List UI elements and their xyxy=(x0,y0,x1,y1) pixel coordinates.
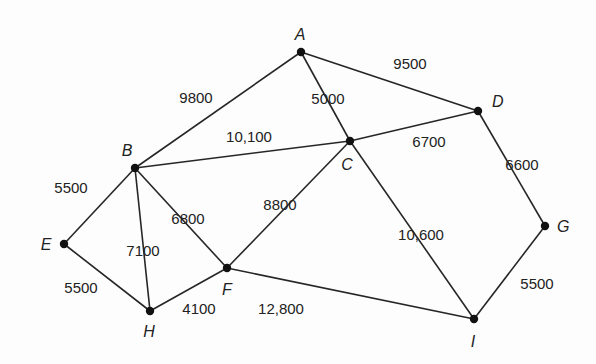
node-label-g: G xyxy=(557,218,569,235)
node-label-f: F xyxy=(222,281,233,298)
edge-weight-label: 10,600 xyxy=(398,226,444,243)
graph-svg: 98009500500010,1006700660055007100680088… xyxy=(0,0,596,364)
graph-diagram: 98009500500010,1006700660055007100680088… xyxy=(0,0,596,364)
node-label-c: C xyxy=(341,156,353,173)
edges-layer xyxy=(64,52,545,319)
node-h xyxy=(146,307,154,315)
edge-weight-label: 5500 xyxy=(520,275,553,292)
edge-weight-label: 10,100 xyxy=(226,128,272,145)
node-i xyxy=(470,315,478,323)
node-c xyxy=(346,137,354,145)
edge-g-i xyxy=(474,226,545,319)
edge-weight-label: 9800 xyxy=(179,89,212,106)
nodes-layer xyxy=(60,48,549,323)
node-d xyxy=(474,107,482,115)
edge-b-h xyxy=(135,168,150,311)
edge-weight-label: 6800 xyxy=(171,210,204,227)
edge-weight-label: 5500 xyxy=(64,279,97,296)
edge-weight-label: 6600 xyxy=(505,156,538,173)
edge-weight-label: 4100 xyxy=(182,300,215,317)
edge-weight-label: 5500 xyxy=(54,179,87,196)
node-g xyxy=(541,222,549,230)
node-label-h: H xyxy=(143,323,155,340)
node-label-d: D xyxy=(492,93,504,110)
node-label-i: I xyxy=(471,333,476,350)
edge-weight-label: 7100 xyxy=(126,242,159,259)
edge-weight-label: 8800 xyxy=(263,196,296,213)
edge-weight-label: 9500 xyxy=(393,55,426,72)
edge-weight-label: 12,800 xyxy=(258,300,304,317)
node-e xyxy=(60,240,68,248)
edge-weight-label: 5000 xyxy=(311,90,344,107)
node-label-e: E xyxy=(41,236,52,253)
node-b xyxy=(131,164,139,172)
node-f xyxy=(223,264,231,272)
node-a xyxy=(297,48,305,56)
node-label-a: A xyxy=(294,26,306,43)
edge-weight-label: 6700 xyxy=(412,133,445,150)
node-label-b: B xyxy=(122,142,133,159)
